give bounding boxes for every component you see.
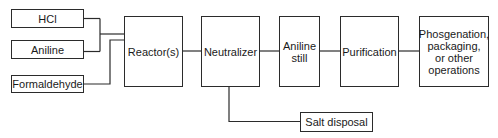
aniline-input-label: Aniline (31, 44, 64, 56)
hcl-label: HCl (38, 13, 56, 25)
final-operations-box: Phosgenation, packaging, or other operat… (419, 16, 489, 87)
hcl-box: HCl (11, 9, 84, 28)
formaldehyde-label: Formaldehyde (12, 78, 82, 90)
salt-disposal-box: Salt disposal (300, 112, 373, 132)
neutralizer-box: Neutralizer (201, 16, 260, 87)
neutralizer-label: Neutralizer (204, 46, 257, 58)
aniline-still-box: Aniline still (279, 16, 320, 87)
reactor-box: Reactor(s) (124, 16, 183, 87)
final-operations-label: Phosgenation, packaging, or other operat… (419, 28, 489, 76)
salt-disposal-label: Salt disposal (305, 116, 367, 128)
formaldehyde-connector (83, 40, 124, 84)
purification-label: Purification (342, 46, 396, 58)
neutralizer-to-salt (229, 86, 300, 122)
aniline-input-box: Aniline (11, 40, 84, 59)
formaldehyde-box: Formaldehyde (11, 75, 84, 93)
reactor-label: Reactor(s) (128, 46, 179, 58)
purification-box: Purification (340, 16, 399, 87)
aniline-still-label: Aniline still (283, 40, 316, 64)
